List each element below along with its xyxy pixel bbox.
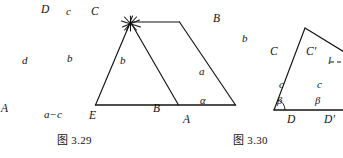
angle-label-alpha: α (200, 96, 206, 107)
vertex-label-c: C (91, 6, 99, 18)
vertex-label-e: E (89, 110, 96, 122)
vertex-label-a: A (183, 114, 190, 126)
vertex-d-hatch-burst-icon (122, 16, 141, 31)
angle-label-beta-d: β (277, 96, 282, 107)
side-label-de: b (67, 53, 73, 64)
side-label-cd: c (279, 79, 284, 90)
side-label-bc: b (242, 33, 248, 44)
vertex-label-d: D (287, 114, 295, 126)
side-label-cprime-dprime: c (317, 79, 322, 90)
side-label-cb: b (120, 55, 126, 66)
figure-3-29: A B C D E c d b b a−c 图 3.29 (0, 0, 172, 158)
figure-3-29-caption: 图 3.29 (57, 135, 92, 146)
vertex-label-b: B (153, 103, 160, 115)
vertex-label-d: D (41, 4, 49, 16)
vertex-label-b: B (213, 13, 220, 25)
vertex-label-d-prime: D′ (324, 114, 335, 126)
figure-3-30-caption: 图 3.30 (233, 135, 268, 146)
side-label-ad: d (22, 55, 28, 66)
side-label-ae: a−c (44, 109, 62, 120)
vertex-label-c: C (270, 46, 278, 58)
figure-3-30: A B C C′ D D′ a b c c l α β β 图 3.30 (172, 0, 343, 158)
line-label-l: l (328, 55, 331, 66)
geometry-figures-board: A B C D E c d b b a−c 图 3.29 (0, 0, 343, 158)
angle-label-beta-d-prime: β (315, 96, 320, 107)
side-label-ab: a (199, 66, 205, 77)
vertex-label-c-prime: C′ (306, 46, 316, 58)
vertex-label-a: A (1, 103, 8, 115)
side-label-dc: c (66, 6, 71, 17)
